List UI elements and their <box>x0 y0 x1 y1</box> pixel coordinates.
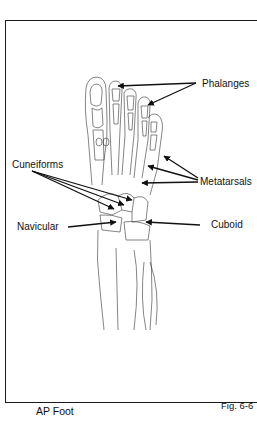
label-navicular: Navicular <box>17 221 59 232</box>
label-cuboid: Cuboid <box>211 219 243 230</box>
label-phalanges: Phalanges <box>202 78 249 89</box>
foot-bone-illustration <box>0 0 257 422</box>
figure-caption: AP Foot <box>36 405 74 417</box>
label-cuneiforms: Cuneiforms <box>12 159 63 170</box>
figure-number: Fig. 6-6 <box>221 400 253 411</box>
label-metatarsals: Metatarsals <box>200 176 252 187</box>
